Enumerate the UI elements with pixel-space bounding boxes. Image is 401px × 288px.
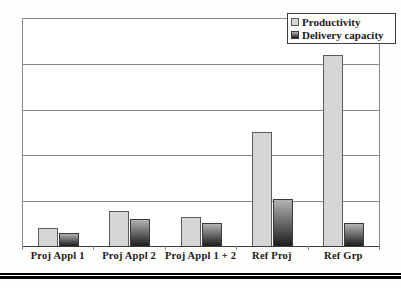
legend-item-delivery-capacity: Delivery capacity [291, 28, 393, 41]
bar-pair [323, 55, 364, 246]
x-axis-label: Proj Appl 1 + 2 [165, 250, 236, 261]
axis-tick [379, 246, 380, 250]
bar-productivity [181, 217, 201, 246]
legend: Productivity Delivery capacity [287, 13, 396, 44]
plot-area [22, 18, 380, 247]
bar-pair [109, 211, 150, 246]
legend-swatch-delivery-capacity-icon [291, 31, 299, 39]
bar-delivery-capacity [130, 219, 150, 246]
legend-swatch-productivity-icon [291, 18, 299, 26]
bar-productivity [252, 132, 272, 246]
bar-pair [38, 228, 79, 246]
bar-delivery-capacity [202, 223, 222, 246]
legend-label: Productivity [302, 16, 360, 28]
page-rule-thin [0, 273, 401, 275]
bar-productivity [109, 211, 129, 246]
x-axis-label: Ref Proj [236, 250, 307, 261]
category-group [23, 19, 94, 246]
bar-delivery-capacity [344, 223, 364, 246]
x-axis-label: Proj Appl 1 [22, 250, 93, 261]
x-axis-label: Proj Appl 2 [93, 250, 164, 261]
bar-pair [252, 132, 293, 246]
x-labels-row: Proj Appl 1Proj Appl 2Proj Appl 1 + 2Ref… [22, 250, 379, 261]
legend-label: Delivery capacity [302, 29, 384, 41]
x-axis-label: Ref Grp [308, 250, 379, 261]
bar-delivery-capacity [273, 199, 293, 246]
bar-pair [181, 217, 222, 246]
bar-productivity [38, 228, 58, 246]
bar-delivery-capacity [59, 233, 79, 246]
legend-item-productivity: Productivity [291, 15, 393, 28]
figure-page: Proj Appl 1Proj Appl 2Proj Appl 1 + 2Ref… [0, 0, 401, 288]
category-group [237, 19, 308, 246]
bar-productivity [323, 55, 343, 246]
category-group [308, 19, 379, 246]
category-group [165, 19, 236, 246]
category-group [94, 19, 165, 246]
page-rule-thick [0, 276, 401, 279]
bars-layer [23, 19, 379, 246]
